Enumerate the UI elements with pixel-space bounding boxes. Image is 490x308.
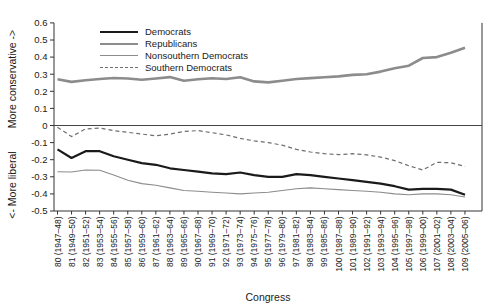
y-tick-label: -0.1 xyxy=(31,137,47,148)
x-tick-label: 80 (1947–48) xyxy=(53,216,63,267)
x-tick-label: 95 (1977–78) xyxy=(263,216,273,267)
series-line-democrats xyxy=(58,149,466,194)
y-tick-label: 0 xyxy=(42,120,47,131)
y-tick-label: -0.5 xyxy=(31,205,47,216)
legend-label: Southern Democrats xyxy=(145,63,232,72)
legend-line-sample xyxy=(100,67,138,68)
x-tick-label: 83 (1953–54) xyxy=(95,216,105,267)
legend-item-southern-democrats: Southern Democrats xyxy=(100,63,248,72)
x-tick-label: 97 (1981–82) xyxy=(291,216,301,267)
x-tick-label: 103 (1993–94) xyxy=(376,216,386,271)
y-tick-label: -0.2 xyxy=(31,154,47,165)
y-axis-label-liberal: <- More liberal xyxy=(6,115,20,255)
legend-label: Democrats xyxy=(145,27,191,36)
legend-label: Nonsouthern Democrats xyxy=(145,51,248,60)
x-tick-label: 81 (1949–50) xyxy=(67,216,77,267)
y-tick-label: 0.3 xyxy=(34,69,47,80)
x-tick-label: 93 (1973–74) xyxy=(235,216,245,267)
x-tick-label: 100 (1987–88) xyxy=(334,216,344,271)
x-tick-label: 106 (1999–00) xyxy=(418,216,428,271)
legend-label: Republicans xyxy=(145,39,197,48)
y-tick-label: 0.1 xyxy=(34,103,47,114)
legend-item-democrats: Democrats xyxy=(100,27,248,36)
legend-line-sample xyxy=(100,43,138,45)
x-tick-label: 105 (1997–98) xyxy=(404,216,414,271)
x-tick-label: 82 (1951–52) xyxy=(81,216,91,267)
x-tick-label: 98 (1983–84) xyxy=(305,216,315,267)
x-tick-label: 107 (2001–02) xyxy=(432,216,442,271)
x-tick-label: 94 (1975–76) xyxy=(249,216,259,267)
x-tick-label: 87 (1961–62) xyxy=(151,216,161,267)
x-tick-label: 90 (1967–68) xyxy=(193,216,203,267)
x-tick-label: 104 (1995–96) xyxy=(390,216,400,271)
legend-item-republicans: Republicans xyxy=(100,39,248,48)
x-tick-label: 99 (1985–86) xyxy=(319,216,329,267)
legend: DemocratsRepublicansNonsouthern Democrat… xyxy=(100,27,248,72)
x-tick-label: 102 (1991–92) xyxy=(362,216,372,271)
x-axis-title: Congress xyxy=(54,291,482,303)
y-tick-label: 0.2 xyxy=(34,86,47,97)
x-tick-label: 84 (1955–56) xyxy=(109,216,119,267)
x-tick-label: 86 (1959–60) xyxy=(137,216,147,267)
x-tick-label: 109 (2005–06) xyxy=(460,216,470,271)
y-tick-label: 0.5 xyxy=(34,34,47,45)
party-means-line-chart: 0.60.50.40.30.20.10-0.1-0.2-0.3-0.4-0.58… xyxy=(0,0,490,308)
series-line-nonsouthern-democrats xyxy=(58,170,466,197)
legend-line-sample xyxy=(100,31,138,33)
x-tick-label: 85 (1957–58) xyxy=(123,216,133,267)
legend-item-nonsouthern-democrats: Nonsouthern Democrats xyxy=(100,51,248,60)
x-tick-labels: 80 (1947–48)81 (1949–50)82 (1951–52)83 (… xyxy=(53,211,470,272)
x-tick-label: 108 (2003–04) xyxy=(446,216,456,271)
y-tick-label: -0.4 xyxy=(31,188,47,199)
y-tick-label: -0.3 xyxy=(31,171,47,182)
x-tick-label: 101 (1989–90) xyxy=(348,216,358,271)
y-tick-label: 0.4 xyxy=(34,51,47,62)
x-tick-label: 89 (1965–66) xyxy=(179,216,189,267)
x-tick-label: 91 (1969–70) xyxy=(207,216,217,267)
x-tick-label: 88 (1963–64) xyxy=(165,216,175,267)
y-tick-labels: 0.60.50.40.30.20.10-0.1-0.2-0.3-0.4-0.5 xyxy=(31,17,54,216)
x-tick-label: 92 (1971–72) xyxy=(221,216,231,267)
legend-line-sample xyxy=(100,55,138,56)
series-line-southern-democrats xyxy=(58,127,466,170)
x-tick-label: 96 (1979–80) xyxy=(277,216,287,267)
y-tick-label: 0.6 xyxy=(34,17,47,28)
